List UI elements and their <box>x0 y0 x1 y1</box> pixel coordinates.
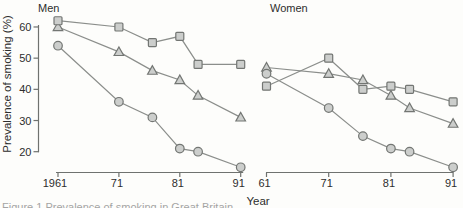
y-axis-title: Prevalence of smoking (%) <box>1 15 13 153</box>
square-marker <box>148 39 156 47</box>
triangle-marker <box>148 66 158 75</box>
triangle-series-line <box>267 68 454 124</box>
square-marker <box>449 98 457 106</box>
panel-title-women: Women <box>270 2 308 14</box>
circle-marker <box>115 98 124 107</box>
x-axis-tick-label: 91 <box>445 177 457 189</box>
y-axis-tick-label: 60 <box>19 21 31 33</box>
panel-title-men: Men <box>38 2 59 14</box>
y-axis-tick-label: 30 <box>19 115 31 127</box>
square-marker <box>237 60 245 68</box>
triangle-marker <box>236 112 246 121</box>
circle-marker <box>324 104 333 113</box>
circle-marker <box>387 144 396 153</box>
smoking-prevalence-figure: 2030405060Prevalence of smoking (%)Men19… <box>0 0 463 208</box>
circle-marker <box>176 144 185 153</box>
circle-marker <box>54 41 63 50</box>
circle-marker <box>359 132 368 141</box>
square-marker <box>194 60 202 68</box>
y-axis-tick-label: 50 <box>19 52 31 64</box>
x-axis-tick-label: 71 <box>321 177 333 189</box>
figure-svg: 2030405060Prevalence of smoking (%)Men19… <box>0 0 463 208</box>
triangle-marker <box>193 91 203 100</box>
square-marker <box>359 85 367 93</box>
square-marker <box>54 17 62 25</box>
square-marker <box>115 23 123 31</box>
circle-marker <box>449 163 458 172</box>
square-marker <box>176 32 184 40</box>
square-marker <box>387 82 395 90</box>
circle-marker <box>262 69 271 78</box>
figure-caption: Figure 1 Prevalence of smoking in Great … <box>2 201 233 208</box>
triangle-marker <box>405 103 415 112</box>
x-axis-tick-label: 81 <box>172 177 184 189</box>
triangle-marker <box>114 47 124 56</box>
circle-marker <box>236 163 245 172</box>
square-marker <box>263 82 271 90</box>
square-marker <box>406 85 414 93</box>
x-axis-tick-label: 81 <box>383 177 395 189</box>
square-marker <box>325 54 333 62</box>
x-axis-tick-label: 91 <box>233 177 245 189</box>
x-axis-tick-label: 71 <box>111 177 123 189</box>
y-axis-tick-label: 40 <box>19 83 31 95</box>
triangle-marker <box>386 91 396 100</box>
x-axis-title: Year <box>246 195 269 207</box>
circle-marker <box>405 147 414 156</box>
circle-marker <box>194 147 203 156</box>
x-axis-tick-label: 61 <box>258 177 270 189</box>
y-axis-tick-label: 20 <box>19 146 31 158</box>
circle-marker <box>148 113 157 122</box>
x-axis-tick-label: 1961 <box>43 177 67 189</box>
